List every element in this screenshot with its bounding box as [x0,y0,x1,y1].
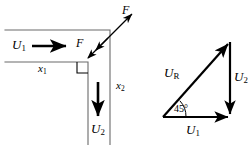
triangle-resultant-label: UR [164,66,179,81]
force-label-top: F [122,4,129,16]
right-angle-marker [77,62,88,73]
force-label-inner: F [76,37,83,49]
figure-root: U1 x1 U2 x2 F F UR U2 U1 45° [0,0,249,145]
triangle-vertical-label: U2 [234,70,248,85]
outlet-length-label: x2 [116,80,125,92]
inlet-velocity-label: U1 [12,38,26,53]
outlet-velocity-label: U2 [91,122,105,137]
triangle-angle-label: 45° [174,104,188,114]
inlet-length-label: x1 [38,63,47,75]
triangle-horizontal-label: U1 [186,123,200,138]
force-arrow-inner-head [96,38,108,50]
